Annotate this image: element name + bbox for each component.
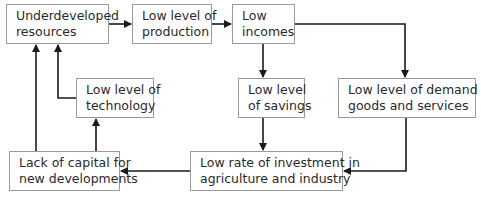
node-line-1: Lack of capital for (19, 155, 110, 171)
node-line-2: goods and services (348, 98, 466, 114)
node-line-1: Low rate of investment in (200, 155, 333, 171)
node-line-1: Low level (248, 82, 295, 98)
node-line-2: agriculture and industry (200, 171, 333, 187)
node-low-demand: Low level of demand for goods and servic… (338, 78, 476, 118)
node-line-2: production (142, 24, 202, 40)
node-low-savings: Low level of savings (238, 78, 305, 118)
node-line-2: new developments (19, 171, 110, 187)
node-line-2: resources (16, 24, 99, 40)
arrow-technology-to-resources (58, 45, 76, 98)
node-line-2: technology (86, 98, 144, 114)
node-low-incomes: Low incomes (232, 4, 295, 44)
node-line-1: Underdeveloped (16, 8, 99, 24)
node-lack-of-capital: Lack of capital for new developments (9, 151, 120, 191)
node-line-1: Low (242, 8, 285, 24)
node-line-1: Low level of (142, 8, 202, 24)
node-line-2: of savings (248, 98, 295, 114)
node-line-2: incomes (242, 24, 285, 40)
node-underdeveloped-resources: Underdeveloped resources (6, 4, 109, 44)
node-line-1: Low level of (86, 82, 144, 98)
node-low-production: Low level of production (132, 4, 212, 44)
arrow-incomes-to-demand (295, 24, 405, 77)
node-line-1: Low level of demand for (348, 82, 466, 98)
node-low-technology: Low level of technology (76, 78, 154, 118)
node-low-investment: Low rate of investment in agriculture an… (190, 151, 343, 191)
